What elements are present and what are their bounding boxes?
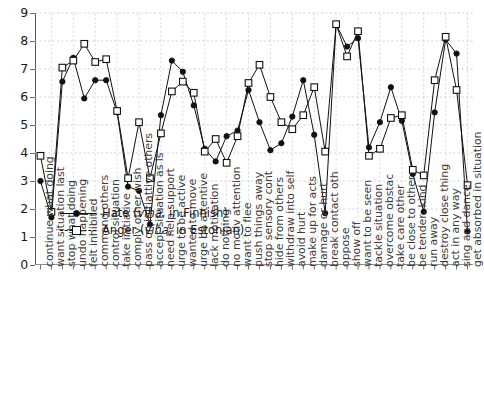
y-tick-label: 4: [20, 147, 28, 160]
y-tick-label: 7: [20, 63, 28, 76]
y-tick-label: 9: [20, 7, 28, 20]
legend-label-hate: Hate (viha, in Finnish): [102, 205, 228, 222]
y-tick-label: 5: [20, 119, 28, 132]
y-tick-label: 1: [20, 231, 28, 244]
y-tick-label: 3: [20, 175, 28, 188]
x-axis-labels: continue what doingwant situation lastst…: [35, 267, 473, 401]
y-tick-mark: [30, 265, 35, 266]
legend-item-anger: Anger (viha, in Estonian): [60, 222, 244, 239]
x-tick-label: get absorbed in situation: [472, 132, 483, 267]
x-tick-label: sing and dance: [461, 184, 472, 267]
legend-label-anger: Anger (viha, in Estonian): [102, 222, 244, 239]
legend-marker-filled-circle-icon: [60, 208, 96, 219]
y-tick-label: 2: [20, 203, 28, 216]
x-tick-label: act in any way: [450, 188, 461, 267]
legend-marker-open-square-icon: [60, 225, 96, 236]
legend-item-hate: Hate (viha, in Finnish): [60, 205, 244, 222]
chart-legend: Hate (viha, in Finnish) Anger (viha, in …: [60, 205, 244, 239]
y-axis: 0123456789: [0, 0, 35, 265]
y-tick-label: 6: [20, 91, 28, 104]
y-tick-label: 0: [20, 259, 28, 272]
y-tick-label: 8: [20, 35, 28, 48]
